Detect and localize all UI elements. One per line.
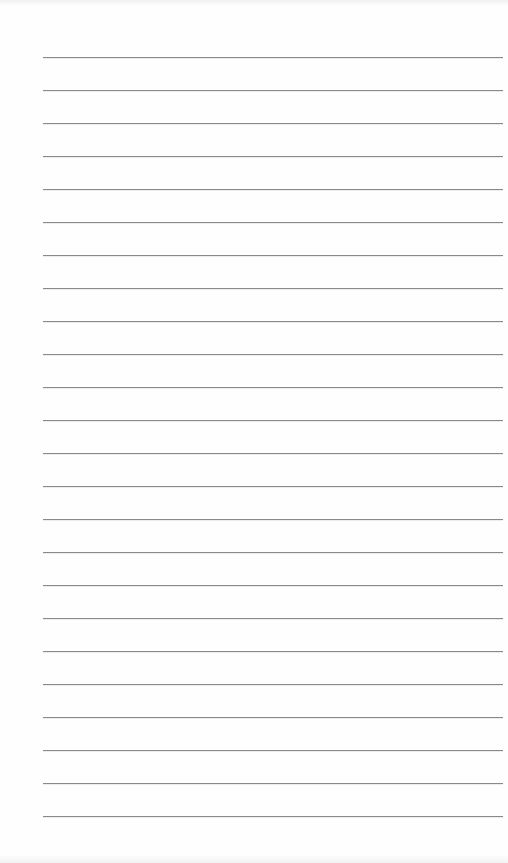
ruled-line — [43, 222, 503, 223]
ruled-line — [43, 90, 503, 91]
ruled-line — [43, 585, 503, 586]
ruled-line — [43, 783, 503, 784]
ruled-line — [43, 750, 503, 751]
ruled-line — [43, 717, 503, 718]
ruled-line — [43, 255, 503, 256]
ruled-line — [43, 816, 503, 817]
ruled-line — [43, 354, 503, 355]
ruled-line — [43, 420, 503, 421]
lined-paper-page — [0, 0, 508, 863]
ruled-line — [43, 618, 503, 619]
ruled-line — [43, 189, 503, 190]
ruled-line — [43, 321, 503, 322]
ruled-line — [43, 651, 503, 652]
ruled-line — [43, 123, 503, 124]
ruled-line — [43, 156, 503, 157]
ruled-line — [43, 288, 503, 289]
ruled-line — [43, 684, 503, 685]
ruled-line — [43, 486, 503, 487]
page-top-edge — [0, 0, 508, 6]
ruled-line — [43, 57, 503, 58]
ruled-line — [43, 552, 503, 553]
ruled-line — [43, 519, 503, 520]
page-bottom-edge — [0, 855, 508, 863]
ruled-line — [43, 387, 503, 388]
ruled-line — [43, 453, 503, 454]
